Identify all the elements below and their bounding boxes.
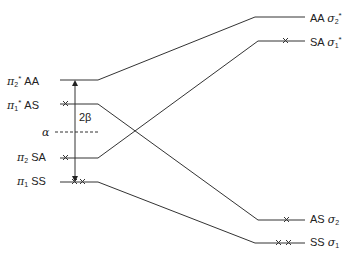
label-sigma1: SS σ1 [310, 236, 339, 252]
label-pi2star: π2* AA [7, 73, 39, 91]
correlation-pi1-sigma1 [98, 182, 255, 243]
correlation-pi1star-sigma2 [98, 104, 258, 220]
correlation-pi2-sigma1star [98, 41, 258, 158]
label-sigma1star: SA σ1* [310, 34, 342, 52]
correlation-diagram [0, 0, 349, 253]
correlation-pi2star-sigma2star [98, 17, 255, 80]
label-pi1star: π1* AS [7, 97, 39, 115]
label-sigma2: AS σ2 [310, 213, 339, 229]
label-sigma2star: AA σ2* [310, 10, 342, 28]
label-alpha: α [42, 126, 49, 139]
label-pi1: π1 SS [17, 175, 46, 191]
label-pi2: π2 SA [17, 151, 46, 167]
label-two-beta: 2β [79, 111, 91, 123]
electron-marks [63, 38, 291, 245]
